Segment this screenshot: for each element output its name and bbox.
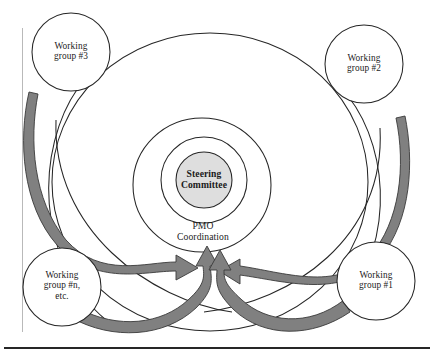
working-group-3-circle[interactable] [32, 13, 110, 91]
diagram-canvas [0, 0, 434, 361]
pmo-governance-diagram: Working group #3 Working group #2 Workin… [0, 0, 434, 361]
working-group-2-circle[interactable] [325, 25, 403, 103]
arrow-wg1-to-pmo[interactable] [209, 250, 350, 331]
steering-committee-disc [176, 152, 232, 208]
working-group-n-circle[interactable] [23, 248, 101, 326]
working-group-1-circle[interactable] [337, 242, 415, 320]
